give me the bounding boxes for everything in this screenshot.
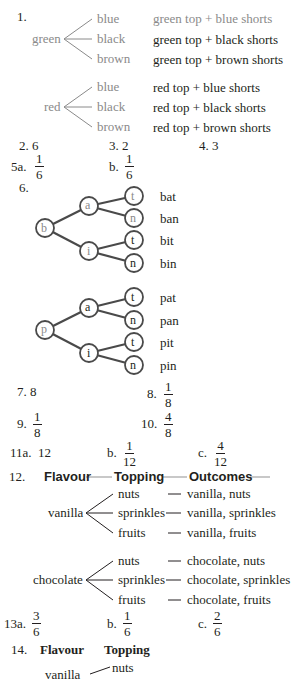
q14-header-topping: Topping — [104, 643, 150, 656]
q12-root-vanilla: vanilla — [48, 506, 83, 519]
q11b-fraction: 112 — [123, 439, 136, 468]
q11c-fraction: 412 — [214, 439, 227, 468]
q11a-value: 12 — [38, 445, 51, 460]
q9-fraction: 18 — [33, 410, 42, 439]
q1-branch-black: black — [97, 100, 125, 113]
q7-value: 8 — [30, 384, 37, 399]
q6-number: 6. — [19, 181, 29, 194]
q2-number: 2. — [19, 138, 29, 153]
q11c-label: c. — [198, 446, 207, 459]
q6-node: n — [130, 257, 136, 269]
q11a-answer: 11a. 12 — [10, 446, 51, 459]
q7-number: 7. — [17, 384, 27, 399]
q11b-label: b. — [107, 446, 117, 459]
q12-header-topping: Topping — [114, 470, 164, 483]
q6-word: bit — [160, 234, 174, 247]
q6-word: pit — [160, 336, 174, 349]
q1-red-branches — [64, 87, 92, 127]
q1-branch-brown: brown — [97, 120, 130, 133]
q1-outcome: red top + blue shorts — [153, 81, 260, 94]
q12-header-flavour: Flavour — [44, 470, 91, 483]
q6-word: ban — [160, 212, 179, 225]
q6-word: pat — [160, 291, 176, 304]
q10-fraction: 48 — [164, 410, 173, 439]
q12-branch: sprinkles — [118, 573, 165, 586]
q14-root-partial: vanilla — [45, 668, 80, 681]
q12-outcome: chocolate, fruits — [187, 593, 271, 606]
q13a-label: 13a. — [4, 617, 26, 630]
q12-branch: fruits — [118, 526, 145, 539]
q8-fraction: 18 — [164, 380, 173, 409]
q6-node: a — [85, 199, 90, 211]
q14-branch — [90, 667, 110, 674]
q3-number: 3. — [109, 138, 119, 153]
q4-answer: 4. 3 — [199, 139, 219, 152]
q6-node: t — [131, 190, 134, 202]
q6-node: t — [131, 234, 134, 246]
q12-header-outcomes: Outcomes — [189, 470, 253, 483]
q9-label: 9. — [17, 417, 27, 430]
q12-outcome: chocolate, sprinkles — [187, 573, 290, 586]
q1-root-red: red — [44, 100, 61, 113]
q14-header-flavour: Flavour — [40, 643, 84, 656]
q5b-fraction: 16 — [125, 152, 134, 181]
q5b-label: b. — [109, 160, 119, 173]
q12-branch: sprinkles — [118, 506, 165, 519]
q6-word: pan — [160, 314, 179, 327]
q6-node: t — [131, 291, 134, 303]
q4-value: 3 — [212, 138, 219, 153]
q1-number: 1. — [17, 10, 27, 23]
q12-branch: nuts — [118, 487, 140, 500]
q13b-label: b. — [107, 617, 117, 630]
q10-label: 10. — [141, 417, 157, 430]
q12-branch: fruits — [118, 593, 145, 606]
q1-branch-black: black — [97, 32, 125, 45]
q1-root-green: green — [32, 32, 61, 45]
q6-word: pin — [160, 359, 177, 372]
q13c-label: c. — [198, 617, 207, 630]
q12-number: 12. — [9, 470, 25, 483]
q1-green-branches — [64, 19, 92, 59]
q8-label: 8. — [147, 387, 157, 400]
q5a-label: 5a. — [11, 160, 27, 173]
q14-number: 14. — [11, 643, 27, 656]
q6-node: i — [87, 347, 90, 359]
q11a-label: 11a. — [10, 445, 32, 460]
q12-outcome: vanilla, nuts — [187, 487, 251, 500]
q14-branch-nuts: nuts — [112, 661, 134, 674]
q13b-fraction: 16 — [123, 609, 132, 638]
q1-branch-blue: blue — [97, 12, 119, 25]
q7-answer: 7. 8 — [17, 385, 37, 398]
q1-branch-blue: blue — [97, 80, 119, 93]
q6-node: i — [87, 245, 90, 257]
q6-node: n — [130, 212, 136, 224]
q1-branch-brown: brown — [97, 52, 130, 65]
q5a-fraction: 16 — [35, 152, 44, 181]
q13c-fraction: 26 — [213, 609, 222, 638]
q6-word: bin — [160, 257, 177, 270]
q1-outcome: green top + black shorts — [153, 33, 278, 46]
q4-number: 4. — [199, 138, 209, 153]
q6-node: b — [41, 222, 47, 234]
q1-outcome: red top + brown shorts — [153, 121, 271, 134]
q6-node: a — [85, 301, 90, 313]
q12-outcome: vanilla, fruits — [187, 526, 256, 539]
q6-word: bat — [160, 190, 176, 203]
q1-outcome: red top + black shorts — [153, 101, 266, 114]
q6-node: n — [130, 314, 136, 326]
q12-outcome: vanilla, sprinkles — [187, 506, 276, 519]
q12-outcome: chocolate, nuts — [187, 554, 265, 567]
q1-outcome: green top + blue shorts — [153, 12, 272, 25]
q6-node: t — [131, 336, 134, 348]
q12-branch: nuts — [118, 554, 140, 567]
q6-node: n — [130, 359, 136, 371]
q6-node: p — [41, 323, 47, 335]
q12-root-chocolate: chocolate — [33, 573, 83, 586]
q1-outcome: green top + brown shorts — [153, 53, 283, 66]
q13a-fraction: 36 — [32, 609, 41, 638]
